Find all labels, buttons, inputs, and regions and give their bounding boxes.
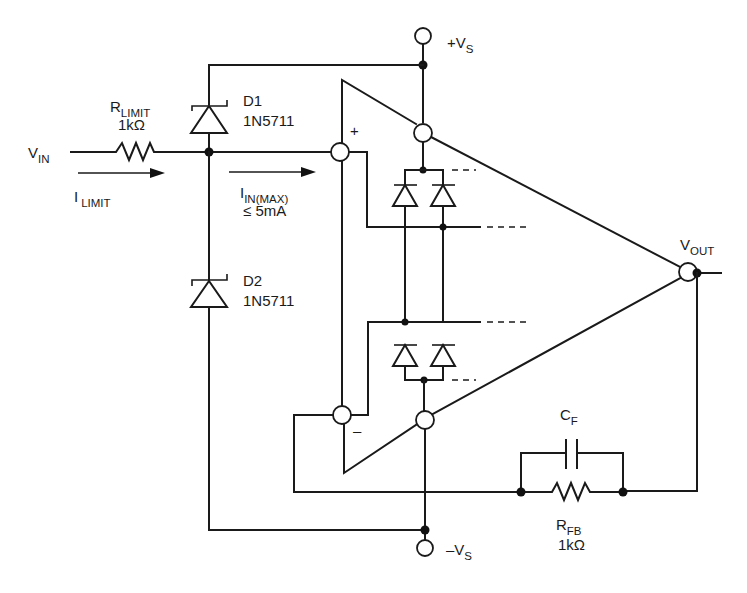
- negative-supply-pin: [416, 411, 434, 429]
- internal-clamp-diode: [431, 170, 455, 322]
- diode-d1-name: D1: [243, 92, 262, 109]
- circuit-diagram: +VS D1 1N5711 VIN RLIMIT 1kΩ ILIMIT IIN(…: [0, 0, 747, 593]
- diode-d2-name: D2: [243, 272, 262, 289]
- ilimit-label: ILIMIT: [74, 188, 111, 209]
- internal-clamp-diode: [393, 345, 443, 380]
- rfb-value: 1kΩ: [558, 536, 585, 553]
- inverting-input-pin: [333, 406, 351, 424]
- positive-supply-terminal: [415, 28, 431, 44]
- junction-node: [517, 488, 526, 497]
- output-network: VOUT: [623, 236, 721, 491]
- cf-label: CF: [560, 406, 578, 427]
- resistor-rlimit: [71, 143, 209, 160]
- internal-clamp-diode: [431, 345, 455, 380]
- diode-d2-part: 1N5711: [243, 292, 294, 309]
- non-inverting-input-pin: [331, 143, 349, 161]
- positive-supply: +VS: [415, 28, 474, 122]
- junction-node: [619, 488, 628, 497]
- iin-max-limit: ≤ 5mA: [243, 202, 286, 219]
- diode-d2: D2 1N5711: [191, 152, 425, 530]
- negative-supply-label: –VS: [446, 541, 472, 562]
- resistor-rfb: [521, 483, 623, 500]
- diode-d1: D1 1N5711: [191, 92, 294, 151]
- inverting-label: –: [353, 422, 362, 439]
- vout-label: VOUT: [680, 236, 714, 257]
- positive-supply-pin: [414, 124, 432, 142]
- diode-d1-part: 1N5711: [243, 112, 294, 129]
- negative-supply: –VS: [417, 429, 472, 562]
- rfb-label: RFB: [556, 516, 582, 537]
- vin-label: VIN: [28, 144, 50, 165]
- internal-clamp-diode: [393, 170, 417, 322]
- non-inverting-label: +: [350, 122, 359, 139]
- negative-supply-terminal: [417, 540, 433, 556]
- positive-supply-label: +VS: [447, 34, 474, 55]
- rlimit-value: 1kΩ: [118, 116, 145, 133]
- diode-d1-symbol: [191, 106, 227, 133]
- top-rail-wire: [209, 65, 423, 104]
- junction-node: [421, 526, 430, 535]
- diode-d2-symbol: [191, 281, 227, 307]
- op-amp: + –: [331, 80, 697, 473]
